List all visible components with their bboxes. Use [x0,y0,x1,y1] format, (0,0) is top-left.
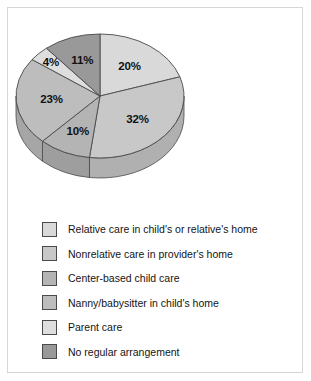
legend-swatch-0 [42,222,57,237]
legend-swatch-2 [42,271,57,286]
legend-item: Nanny/babysitter in child's home [42,291,292,316]
legend-label-0: Relative care in child's or relative's h… [68,224,258,235]
legend-item: No regular arrangement [42,340,292,365]
pie-label-4: 4% [43,56,59,68]
legend-item: Center-based child care [42,266,292,291]
legend-label-5: No regular arrangement [68,347,179,358]
pie-label-5: 11% [71,54,93,66]
legend-label-4: Parent care [68,322,122,333]
legend-item: Parent care [42,315,292,340]
legend-label-1: Nonrelative care in provider's home [68,249,233,260]
legend-item: Relative care in child's or relative's h… [42,217,292,242]
legend-label-3: Nanny/babysitter in child's home [68,298,219,309]
legend: Relative care in child's or relative's h… [42,217,292,364]
pie-label-2: 10% [66,125,89,137]
pie-label-3: 23% [40,93,63,105]
figure-container: 20%32%10%23%4%11% Relative care in child… [0,0,311,381]
legend-swatch-5 [42,344,57,359]
pie-chart-area: 20%32%10%23%4%11% [8,8,303,208]
pie-chart-svg [8,8,303,208]
legend-swatch-4 [42,320,57,335]
legend-label-2: Center-based child care [68,273,179,284]
pie-label-1: 32% [126,113,149,125]
pie-label-0: 20% [118,60,141,72]
legend-swatch-1 [42,246,57,261]
legend-item: Nonrelative care in provider's home [42,242,292,267]
legend-swatch-3 [42,295,57,310]
